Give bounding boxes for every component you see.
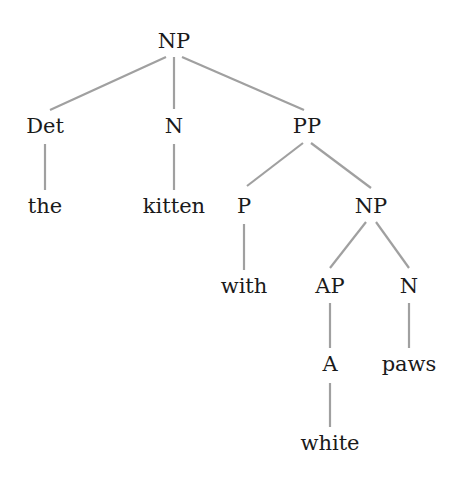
edge-np-pp xyxy=(182,57,304,110)
node-p: P xyxy=(237,196,251,217)
leaf-with: with xyxy=(221,276,268,297)
leaf-paws: paws xyxy=(382,354,437,375)
leaf-white: white xyxy=(300,433,359,454)
node-pp: PP xyxy=(293,116,321,137)
node-n-inner: N xyxy=(400,276,418,297)
node-det: Det xyxy=(26,116,64,137)
tree-edges xyxy=(0,0,459,479)
node-ap: AP xyxy=(315,276,344,297)
edge-pp-p xyxy=(247,143,303,186)
leaf-kitten: kitten xyxy=(143,196,205,217)
edge-np-n2 xyxy=(376,222,409,268)
node-n: N xyxy=(165,116,183,137)
edge-np-det xyxy=(50,57,166,110)
syntax-tree-diagram: NP Det N PP the kitten P NP with AP N A … xyxy=(0,0,459,479)
edge-pp-np xyxy=(311,143,371,188)
node-a: A xyxy=(322,354,337,375)
edge-np-ap xyxy=(330,222,366,268)
node-root-np: NP xyxy=(158,31,191,52)
leaf-the: the xyxy=(28,196,62,217)
node-np-inner: NP xyxy=(355,196,388,217)
